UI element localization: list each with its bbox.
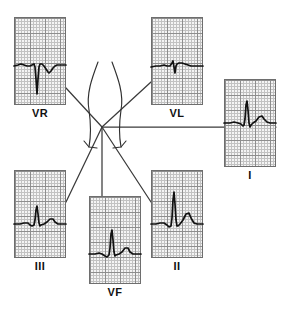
ecg-waveform xyxy=(89,230,141,257)
axis-to-aVL xyxy=(102,82,151,127)
lead-label-avl: VL xyxy=(151,107,203,120)
ecg-trace-ii xyxy=(151,170,203,258)
ecg-trace-i xyxy=(224,79,276,167)
ecg-waveform xyxy=(14,64,66,94)
torso-arc-right xyxy=(112,62,122,147)
ecg-waveform xyxy=(151,61,203,73)
ecg-waveform xyxy=(224,101,276,127)
torso-outline-arcs xyxy=(88,62,122,147)
lead-label-avf: VF xyxy=(89,286,141,299)
lead-panel-ii xyxy=(151,170,203,258)
axis-to-aVR xyxy=(66,88,102,127)
lead-panel-avl xyxy=(151,17,203,105)
lead-label-avr: VR xyxy=(14,107,66,120)
ecg-trace-avl xyxy=(151,17,203,105)
ecg-hexaxial-diagram: VRVLIIIIVFII xyxy=(0,0,281,313)
torso-arrowheads xyxy=(84,141,126,148)
lead-panel-iii xyxy=(14,170,66,258)
lead-panel-avf xyxy=(89,196,141,284)
lead-panel-avr xyxy=(14,17,66,105)
ecg-trace-avr xyxy=(14,17,66,105)
arrowhead-left xyxy=(84,141,97,148)
lead-label-i: I xyxy=(224,169,276,182)
lead-label-ii: II xyxy=(151,260,203,273)
lead-panel-i xyxy=(224,79,276,167)
ecg-trace-iii xyxy=(14,170,66,258)
ecg-waveform xyxy=(14,206,66,226)
lead-label-iii: III xyxy=(14,260,66,273)
ecg-trace-avf xyxy=(89,196,141,284)
torso-arc-left xyxy=(88,62,98,147)
ecg-waveform xyxy=(151,192,203,227)
axis-to-lead-II xyxy=(102,127,151,202)
arrowhead-right xyxy=(113,141,126,148)
axis-to-lead-III xyxy=(66,127,102,202)
